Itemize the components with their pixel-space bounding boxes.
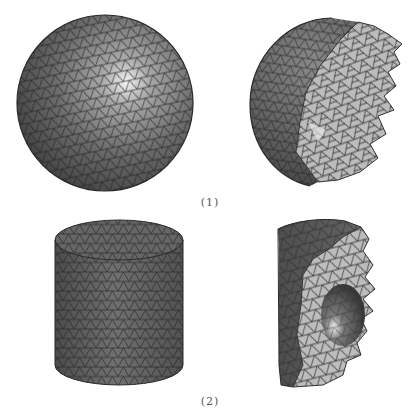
cylinder-cutaway-mesh	[243, 215, 383, 393]
caption-1: (1)	[180, 196, 240, 209]
mesh-figure: (1)	[0, 0, 420, 417]
sphere-cutaway-mesh	[248, 12, 413, 190]
caption-2: (2)	[180, 395, 240, 408]
cylinder-surface-mesh	[52, 215, 192, 393]
sphere-surface-mesh	[10, 10, 200, 194]
